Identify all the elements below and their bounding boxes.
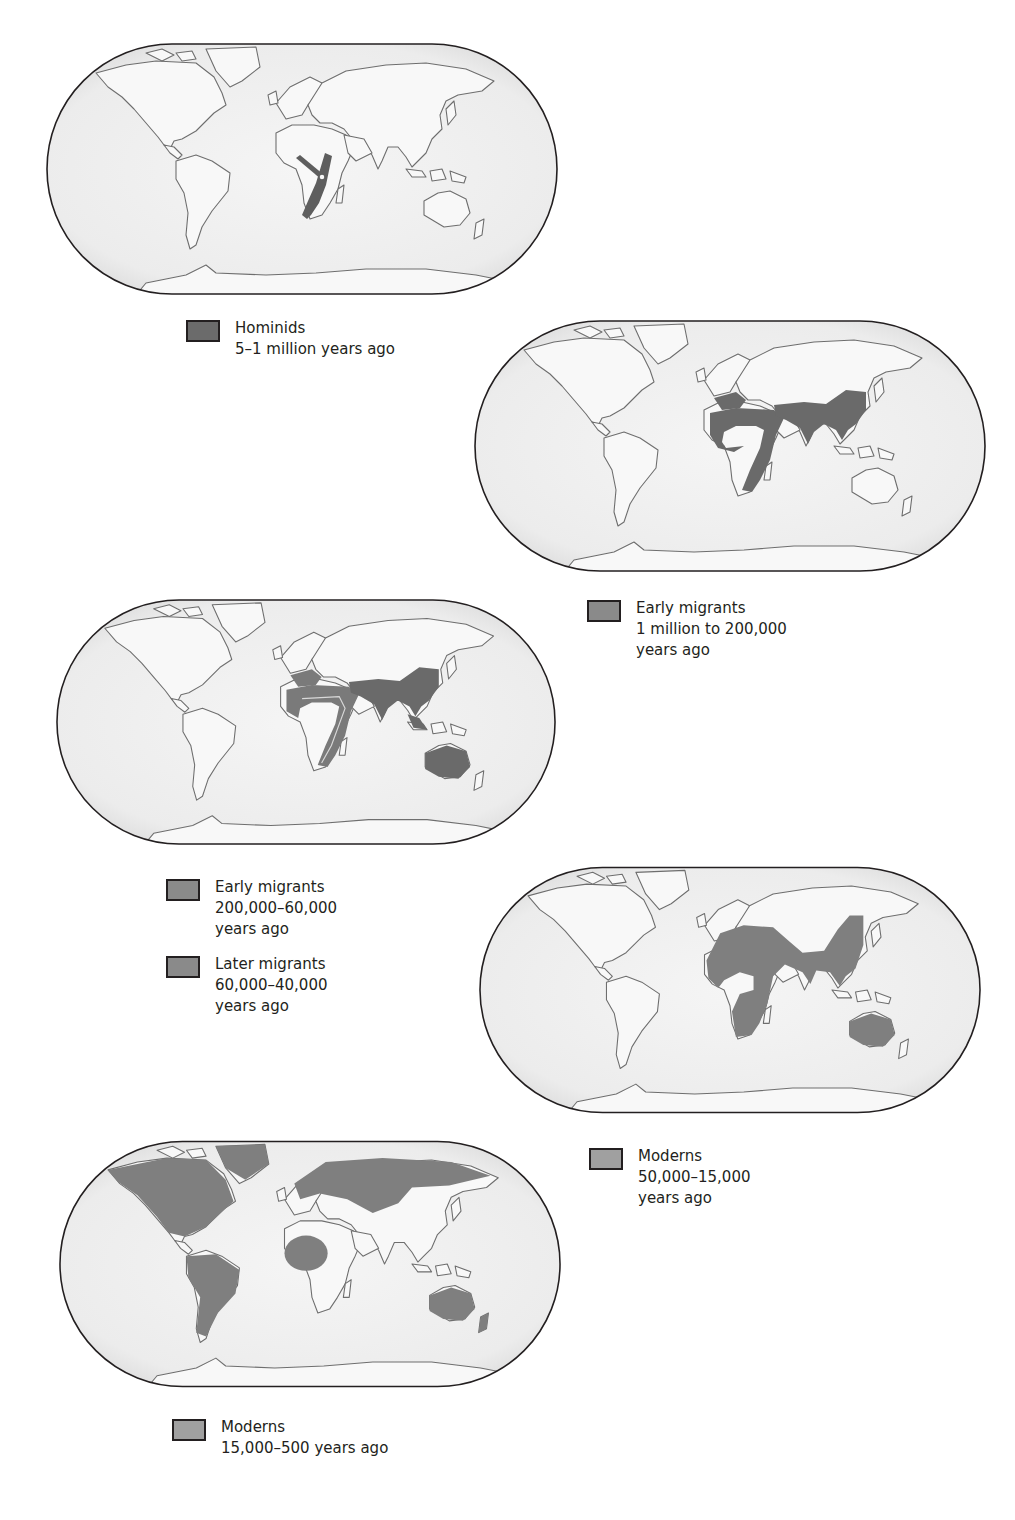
world-map-moderns-2 xyxy=(59,1139,561,1389)
legend-title: Early migrants xyxy=(636,598,787,619)
legend-title: Moderns xyxy=(221,1417,388,1438)
legend-line: 60,000–40,000 xyxy=(215,975,327,996)
moderns-swatch xyxy=(589,1148,623,1170)
legend-early-later-migrants: Early migrants 200,000–60,000 years ago … xyxy=(166,877,337,1017)
early-migrants-swatch xyxy=(587,600,621,622)
map-hominids xyxy=(46,43,558,295)
map-moderns-2 xyxy=(59,1139,561,1389)
legend-line: years ago xyxy=(215,996,327,1017)
legend-title: Later migrants xyxy=(215,954,327,975)
map-early-migrants-1 xyxy=(474,320,986,572)
legend-moderns-2: Moderns 15,000–500 years ago xyxy=(172,1417,388,1459)
legend-line: years ago xyxy=(638,1188,750,1209)
legend-title: Early migrants xyxy=(215,877,337,898)
map-moderns-1 xyxy=(479,865,981,1115)
legend-entry: Moderns 50,000–15,000 years ago xyxy=(589,1146,750,1209)
legend-entry: Later migrants 60,000–40,000 years ago xyxy=(166,954,337,1017)
legend-hominids: Hominids 5–1 million years ago xyxy=(186,318,395,360)
legend-line: 50,000–15,000 xyxy=(638,1167,750,1188)
legend-entry: Hominids 5–1 million years ago xyxy=(186,318,395,360)
hominids-swatch xyxy=(186,320,220,342)
legend-entry: Moderns 15,000–500 years ago xyxy=(172,1417,388,1459)
early-migrants-swatch xyxy=(166,879,200,901)
later-migrants-swatch xyxy=(166,956,200,978)
legend-moderns-1: Moderns 50,000–15,000 years ago xyxy=(589,1146,750,1209)
legend-line: 5–1 million years ago xyxy=(235,339,395,360)
world-map-early-migrants-1 xyxy=(474,320,986,572)
legend-line: 200,000–60,000 xyxy=(215,898,337,919)
legend-line: 1 million to 200,000 xyxy=(636,619,787,640)
legend-title: Hominids xyxy=(235,318,395,339)
moderns-swatch xyxy=(172,1419,206,1441)
legend-title: Moderns xyxy=(638,1146,750,1167)
world-map-hominids xyxy=(46,43,558,295)
legend-line: years ago xyxy=(636,640,787,661)
legend-entry: Early migrants 200,000–60,000 years ago xyxy=(166,877,337,940)
legend-entry: Early migrants 1 million to 200,000 year… xyxy=(587,598,787,661)
world-map-moderns-1 xyxy=(479,865,981,1115)
map-early-later-migrants xyxy=(56,597,556,847)
legend-line: years ago xyxy=(215,919,337,940)
world-map-early-later-migrants xyxy=(56,597,556,847)
legend-early-migrants-1: Early migrants 1 million to 200,000 year… xyxy=(587,598,787,661)
legend-line: 15,000–500 years ago xyxy=(221,1438,388,1459)
